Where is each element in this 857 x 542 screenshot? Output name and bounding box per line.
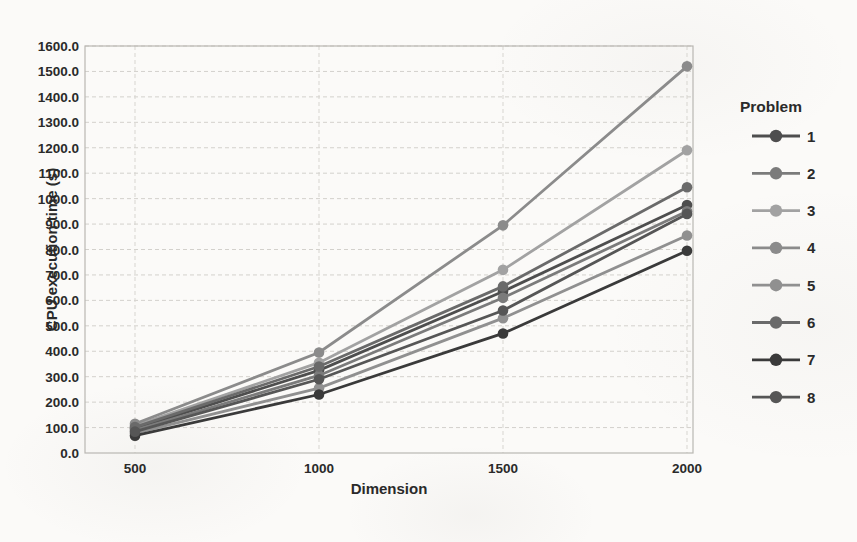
- legend-marker-2: [770, 167, 782, 179]
- legend-item-problem-4: 4: [752, 239, 816, 256]
- data-point-problem-7: [682, 245, 693, 256]
- y-tick-label: 1400.0: [38, 90, 79, 105]
- y-tick-label: 1600.0: [38, 39, 79, 54]
- data-point-problem-4: [314, 347, 325, 358]
- legend-label-2: 2: [807, 165, 815, 182]
- y-tick-label: 300.0: [45, 370, 79, 385]
- data-point-problem-8: [498, 305, 509, 316]
- y-tick-label: 100.0: [45, 421, 79, 436]
- legend-title: Problem: [740, 98, 802, 115]
- legend-label-5: 5: [807, 277, 815, 294]
- legend-item-problem-5: 5: [752, 277, 815, 294]
- legend-item-problem-7: 7: [752, 351, 815, 368]
- data-point-problem-7: [498, 328, 509, 339]
- x-tick-label: 1500: [488, 461, 518, 476]
- legend-item-problem-6: 6: [752, 314, 815, 331]
- data-point-problem-8: [130, 426, 141, 437]
- data-point-problem-3: [498, 265, 509, 276]
- data-point-problem-6: [682, 182, 693, 193]
- legend-marker-3: [770, 204, 782, 216]
- y-tick-label: 200.0: [45, 395, 79, 410]
- x-tick-label: 2000: [672, 461, 702, 476]
- data-point-problem-6: [498, 281, 509, 292]
- data-point-problem-4: [498, 220, 509, 231]
- legend-item-problem-1: 1: [752, 128, 815, 145]
- legend-marker-1: [770, 130, 782, 142]
- y-tick-label: 1200.0: [38, 141, 79, 156]
- y-tick-label: 1500.0: [38, 64, 79, 79]
- data-point-problem-6: [314, 361, 325, 372]
- legend-item-problem-8: 8: [752, 389, 815, 406]
- legend-marker-8: [770, 391, 782, 403]
- y-axis-title: CPU execution time (s): [43, 168, 60, 331]
- legend-label-8: 8: [807, 389, 815, 406]
- data-point-problem-8: [682, 209, 693, 220]
- data-point-problem-5: [682, 230, 693, 241]
- legend-label-1: 1: [807, 128, 815, 145]
- legend-label-6: 6: [807, 314, 815, 331]
- legend-label-3: 3: [807, 202, 815, 219]
- x-tick-label: 500: [124, 461, 147, 476]
- legend-marker-7: [770, 354, 782, 366]
- legend-label-4: 4: [807, 239, 816, 256]
- legend-item-problem-2: 2: [752, 165, 815, 182]
- series-problem-6: [130, 182, 693, 432]
- x-tick-label: 1000: [304, 461, 334, 476]
- data-point-problem-2: [498, 293, 509, 304]
- y-tick-label: 400.0: [45, 344, 79, 359]
- y-tick-label: 0.0: [60, 446, 79, 461]
- legend-marker-6: [770, 316, 782, 328]
- legend-marker-4: [770, 242, 782, 254]
- legend-marker-5: [770, 279, 782, 291]
- data-point-problem-4: [682, 61, 693, 72]
- data-point-problem-3: [682, 145, 693, 156]
- data-point-problem-8: [314, 374, 325, 385]
- data-point-problem-7: [314, 389, 325, 400]
- x-axis-title: Dimension: [351, 480, 428, 497]
- legend-item-problem-3: 3: [752, 202, 815, 219]
- legend-label-7: 7: [807, 351, 815, 368]
- series-problem-4: [130, 61, 693, 429]
- cpu-time-line-chart: 0.0100.0200.0300.0400.0500.0600.0700.080…: [0, 0, 857, 542]
- y-tick-label: 1300.0: [38, 115, 79, 130]
